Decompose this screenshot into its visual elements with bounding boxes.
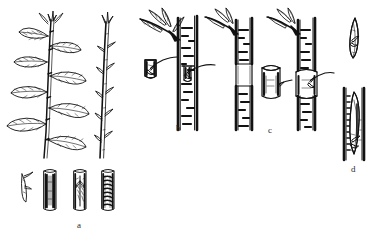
budding-techniques-drawing bbox=[0, 0, 380, 247]
panel-label-b: b bbox=[176, 124, 181, 133]
stem-segment-plain bbox=[44, 170, 56, 211]
stem-segment-incised bbox=[74, 170, 86, 211]
panel-label-d: d bbox=[351, 165, 356, 174]
figure-illustration bbox=[0, 0, 380, 247]
panel-label-a: a bbox=[77, 221, 81, 230]
panel-label-c: c bbox=[268, 126, 272, 135]
stem-segment-wrapped bbox=[102, 170, 114, 211]
